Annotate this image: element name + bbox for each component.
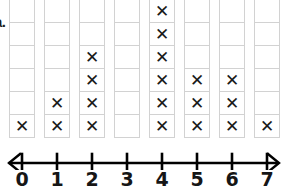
x-mark-icon: ✕ xyxy=(85,117,99,134)
mark-cell-filled: ✕ xyxy=(149,68,175,92)
x-mark-icon: ✕ xyxy=(155,71,169,88)
mark-cell-empty xyxy=(9,68,35,92)
mark-cell-empty xyxy=(254,91,280,115)
x-mark-icon: ✕ xyxy=(85,48,99,65)
mark-cell-empty xyxy=(9,22,35,46)
x-mark-icon: ✕ xyxy=(190,94,204,111)
x-mark-icon: ✕ xyxy=(50,94,64,111)
x-mark-icon: ✕ xyxy=(225,71,239,88)
mark-cell-filled: ✕ xyxy=(79,45,105,69)
mark-cell-empty xyxy=(219,45,245,69)
mark-cell-empty xyxy=(9,91,35,115)
mark-cell-empty xyxy=(44,0,70,23)
mark-cell-empty xyxy=(44,45,70,69)
mark-column-7: ✕ xyxy=(254,0,280,138)
x-mark-icon: ✕ xyxy=(225,94,239,111)
line-plot: a. ✕✕✕✕✕✕✕✕✕✕✕✕✕✕✕✕✕✕✕✕ 01234567 xyxy=(0,0,287,194)
mark-cell-filled: ✕ xyxy=(44,114,70,138)
mark-cell-empty xyxy=(9,45,35,69)
number-line-axis: 01234567 xyxy=(0,146,287,194)
x-mark-icon: ✕ xyxy=(190,71,204,88)
mark-cell-empty xyxy=(44,68,70,92)
mark-cell-filled: ✕ xyxy=(219,114,245,138)
mark-cell-empty xyxy=(219,0,245,23)
axis-label-0: 0 xyxy=(7,170,37,189)
mark-cell-filled: ✕ xyxy=(79,91,105,115)
x-mark-icon: ✕ xyxy=(225,117,239,134)
x-mark-icon: ✕ xyxy=(15,117,29,134)
mark-cell-empty xyxy=(79,0,105,23)
mark-cell-empty xyxy=(184,45,210,69)
mark-column-0: ✕ xyxy=(9,0,35,138)
mark-cell-filled: ✕ xyxy=(149,0,175,23)
axis-label-3: 3 xyxy=(112,170,142,189)
mark-cell-empty xyxy=(114,91,140,115)
mark-cell-filled: ✕ xyxy=(219,91,245,115)
x-mark-icon: ✕ xyxy=(155,117,169,134)
mark-cell-filled: ✕ xyxy=(79,68,105,92)
axis-label-4: 4 xyxy=(147,170,177,189)
x-mark-icon: ✕ xyxy=(155,2,169,19)
mark-cell-filled: ✕ xyxy=(149,22,175,46)
mark-column-5: ✕✕✕ xyxy=(184,0,210,138)
mark-cell-empty xyxy=(184,22,210,46)
mark-cell-filled: ✕ xyxy=(184,114,210,138)
x-mark-icon: ✕ xyxy=(155,48,169,65)
mark-cell-filled: ✕ xyxy=(44,91,70,115)
axis-label-6: 6 xyxy=(217,170,247,189)
mark-cell-filled: ✕ xyxy=(219,68,245,92)
mark-cell-empty xyxy=(219,22,245,46)
x-mark-icon: ✕ xyxy=(190,117,204,134)
axis-line-svg xyxy=(0,146,287,170)
mark-cell-filled: ✕ xyxy=(79,114,105,138)
mark-column-2: ✕✕✕✕ xyxy=(79,0,105,138)
mark-cell-empty xyxy=(254,0,280,23)
mark-cell-filled: ✕ xyxy=(184,68,210,92)
mark-column-1: ✕✕ xyxy=(44,0,70,138)
x-mark-icon: ✕ xyxy=(85,94,99,111)
x-mark-icon: ✕ xyxy=(155,94,169,111)
mark-columns-container: ✕✕✕✕✕✕✕✕✕✕✕✕✕✕✕✕✕✕✕✕ xyxy=(0,0,287,146)
mark-column-6: ✕✕✕ xyxy=(219,0,245,138)
mark-cell-empty xyxy=(114,22,140,46)
x-mark-icon: ✕ xyxy=(50,117,64,134)
axis-label-2: 2 xyxy=(77,170,107,189)
mark-cell-filled: ✕ xyxy=(149,114,175,138)
mark-cell-empty xyxy=(114,68,140,92)
mark-cell-empty xyxy=(79,22,105,46)
mark-column-3 xyxy=(114,0,140,138)
mark-cell-empty xyxy=(254,68,280,92)
mark-cell-empty xyxy=(114,0,140,23)
x-mark-icon: ✕ xyxy=(85,71,99,88)
axis-label-1: 1 xyxy=(42,170,72,189)
x-mark-icon: ✕ xyxy=(155,25,169,42)
mark-cell-empty xyxy=(114,45,140,69)
mark-cell-filled: ✕ xyxy=(184,91,210,115)
axis-label-5: 5 xyxy=(182,170,212,189)
mark-cell-filled: ✕ xyxy=(9,114,35,138)
mark-cell-empty xyxy=(44,22,70,46)
mark-cell-empty xyxy=(254,22,280,46)
mark-cell-empty xyxy=(9,0,35,23)
mark-cell-empty xyxy=(114,114,140,138)
x-mark-icon: ✕ xyxy=(260,117,274,134)
mark-column-4: ✕✕✕✕✕✕ xyxy=(149,0,175,138)
mark-cell-empty xyxy=(184,0,210,23)
mark-cell-empty xyxy=(254,45,280,69)
mark-cell-filled: ✕ xyxy=(254,114,280,138)
mark-cell-filled: ✕ xyxy=(149,45,175,69)
mark-cell-filled: ✕ xyxy=(149,91,175,115)
axis-label-7: 7 xyxy=(252,170,282,189)
